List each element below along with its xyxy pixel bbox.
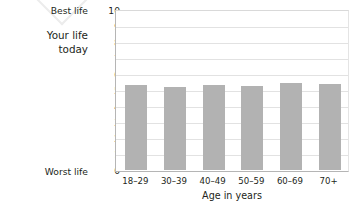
y-axis-title-line-2: today xyxy=(4,43,88,57)
bar-slot xyxy=(194,12,233,170)
x-tick-label: 60–69 xyxy=(271,176,310,186)
bar[interactable] xyxy=(319,84,341,170)
bar-slot xyxy=(117,12,156,170)
bar-slot xyxy=(272,12,311,170)
x-tick-label: 70+ xyxy=(309,176,348,186)
bar-slot xyxy=(310,12,349,170)
x-tick-label: 50–59 xyxy=(232,176,271,186)
bar-slot xyxy=(156,12,195,170)
x-tick-label: 18–29 xyxy=(116,176,155,186)
bar[interactable] xyxy=(164,87,186,170)
x-tick-label: 30–39 xyxy=(155,176,194,186)
plot-wrapper xyxy=(115,10,349,172)
x-axis-title: Age in years xyxy=(115,190,349,201)
bar-chart-figure: Best life Worst life Your life today 012… xyxy=(0,0,359,207)
plot-area xyxy=(115,10,349,172)
x-tick-label: 40–49 xyxy=(193,176,232,186)
best-life-label: Best life xyxy=(51,5,88,16)
bar-slot xyxy=(233,12,272,170)
worst-life-label: Worst life xyxy=(45,166,88,177)
bar[interactable] xyxy=(241,86,263,170)
bars-layer xyxy=(117,12,347,170)
y-axis-title-line-1: Your life xyxy=(4,29,88,43)
bar[interactable] xyxy=(125,85,147,170)
bar[interactable] xyxy=(203,85,225,170)
y-axis-title: Your life today xyxy=(4,29,88,56)
bar[interactable] xyxy=(280,83,302,170)
